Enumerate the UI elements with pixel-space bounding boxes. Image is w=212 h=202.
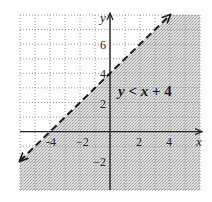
inequality-label: y < x + 4	[116, 83, 172, 99]
y-tick-label: 6	[100, 38, 106, 52]
inequality-lhs: y	[116, 83, 125, 99]
x-tick-label: 2	[136, 135, 142, 149]
x-tick-label: 4	[166, 135, 172, 149]
y-axis-label: y	[98, 10, 106, 25]
inequality-rhs-rest: + 4	[152, 83, 172, 99]
y-tick-label: 2	[100, 97, 106, 111]
y-tick-label: 4	[100, 67, 106, 81]
x-tick-label: −2	[76, 135, 89, 149]
x-tick-label: -4	[46, 135, 56, 149]
inequality-graph: -4−224642−2 x y y < x + 4	[0, 0, 212, 202]
inequality-operator: <	[128, 83, 137, 99]
y-tick-label: −2	[93, 155, 106, 169]
x-axis-label: x	[195, 134, 202, 149]
inequality-rhs-var: x	[140, 83, 149, 99]
